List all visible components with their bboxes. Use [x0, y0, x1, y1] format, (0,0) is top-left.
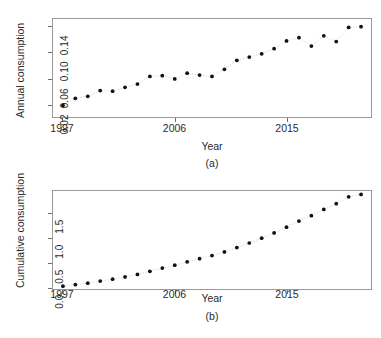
y-tick-mark	[48, 263, 52, 264]
scatter-series-b	[53, 191, 371, 289]
y-tick-mark	[48, 79, 52, 80]
y-tick-label: 0.10	[59, 62, 70, 82]
x-tick-label: 1997	[50, 122, 73, 134]
y-tick-label: 0.06	[59, 88, 70, 108]
plot-canvas-a	[53, 19, 371, 117]
x-tick-label: 2006	[163, 288, 186, 300]
plot-area-b	[52, 190, 372, 290]
y-tick-mark	[48, 26, 52, 27]
plot-canvas-b	[53, 191, 371, 289]
x-tick-label: 2006	[163, 122, 186, 134]
figure-panel-b: 0.00.51.01.5199720062015 Cumulative cons…	[0, 170, 381, 338]
y-tick-mark	[48, 105, 52, 106]
scatter-series-a	[53, 19, 371, 117]
y-tick-label: 0.14	[59, 35, 70, 55]
x-tick-label: 1997	[50, 288, 73, 300]
y-tick-label: 1.0	[54, 244, 65, 258]
panel-caption-b: (b)	[206, 310, 219, 322]
x-axis-title-a: Year	[201, 140, 222, 152]
figure-panel-a: 0.020.060.100.14199720062015 Annual cons…	[0, 0, 381, 170]
y-axis-title-a: Annual consumption	[14, 23, 26, 118]
y-tick-mark	[48, 213, 52, 214]
plot-area-a	[52, 18, 372, 118]
y-tick-mark	[48, 238, 52, 239]
y-axis-title-b: Cumulative consumption	[14, 173, 26, 288]
y-tick-label: 1.5	[54, 219, 65, 233]
panel-caption-a: (a)	[206, 157, 219, 169]
x-tick-label: 2015	[275, 288, 298, 300]
x-axis-title-b: Year	[201, 292, 222, 304]
y-tick-mark	[48, 52, 52, 53]
y-tick-label: 0.5	[54, 269, 65, 283]
x-tick-label: 2015	[275, 122, 298, 134]
